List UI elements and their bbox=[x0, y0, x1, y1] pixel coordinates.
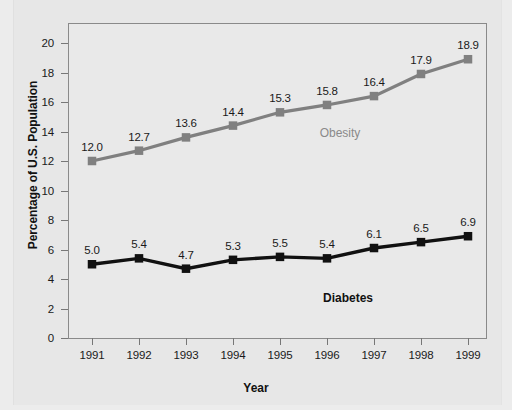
series-label-diabetes: Diabetes bbox=[268, 291, 428, 305]
data-point-marker bbox=[276, 253, 285, 262]
data-point-value-label: 5.4 bbox=[116, 238, 162, 250]
data-point-value-label: 5.4 bbox=[304, 238, 350, 250]
y-axis-tick bbox=[61, 279, 68, 280]
data-point-marker bbox=[323, 254, 332, 263]
x-axis-tick-label: 1998 bbox=[397, 349, 445, 361]
x-axis-tick-label: 1995 bbox=[256, 349, 304, 361]
data-point-value-label: 5.0 bbox=[69, 244, 115, 256]
data-point-value-label: 17.9 bbox=[398, 54, 444, 66]
y-axis-tick bbox=[61, 191, 68, 192]
x-axis-tick bbox=[468, 338, 469, 345]
series-obesity-line bbox=[88, 55, 473, 165]
y-axis-title: Percentage of U.S. Population bbox=[26, 35, 40, 295]
x-axis-tick bbox=[139, 338, 140, 345]
data-point-marker bbox=[370, 92, 379, 101]
x-axis-tick bbox=[233, 338, 234, 345]
data-point-marker bbox=[464, 232, 473, 241]
data-point-value-label: 4.7 bbox=[163, 249, 209, 261]
data-point-value-label: 6.1 bbox=[351, 228, 397, 240]
x-axis-tick bbox=[421, 338, 422, 345]
data-point-marker bbox=[88, 157, 97, 166]
data-point-marker bbox=[323, 101, 332, 110]
data-point-marker bbox=[88, 260, 97, 269]
data-point-marker bbox=[370, 244, 379, 253]
y-axis-tick bbox=[61, 220, 68, 221]
y-axis-tick bbox=[61, 43, 68, 44]
x-axis-tick bbox=[327, 338, 328, 345]
x-axis-tick-label: 1991 bbox=[68, 349, 116, 361]
y-axis-tick bbox=[61, 338, 68, 339]
x-axis-tick-label: 1999 bbox=[444, 349, 492, 361]
data-point-value-label: 13.6 bbox=[163, 117, 209, 129]
x-axis-tick bbox=[186, 338, 187, 345]
x-axis-tick-label: 1997 bbox=[350, 349, 398, 361]
x-axis-tick-label: 1993 bbox=[162, 349, 210, 361]
data-point-value-label: 12.0 bbox=[69, 141, 115, 153]
data-point-value-label: 16.4 bbox=[351, 76, 397, 88]
data-point-marker bbox=[464, 55, 473, 64]
data-point-marker bbox=[135, 254, 144, 263]
y-axis-tick bbox=[61, 250, 68, 251]
y-axis-tick-label: 2 bbox=[24, 303, 54, 315]
data-point-value-label: 15.8 bbox=[304, 85, 350, 97]
data-point-marker bbox=[417, 70, 426, 79]
data-point-value-label: 18.9 bbox=[445, 39, 491, 51]
data-point-marker bbox=[229, 121, 238, 130]
x-axis-tick-label: 1996 bbox=[303, 349, 351, 361]
data-point-value-label: 5.3 bbox=[210, 240, 256, 252]
data-point-value-label: 15.3 bbox=[257, 92, 303, 104]
x-axis-tick-label: 1994 bbox=[209, 349, 257, 361]
data-point-value-label: 6.5 bbox=[398, 222, 444, 234]
x-axis-tick-label: 1992 bbox=[115, 349, 163, 361]
x-axis-title: Year bbox=[0, 381, 512, 395]
y-axis-tick-label: 0 bbox=[24, 332, 54, 344]
data-point-marker bbox=[182, 264, 191, 273]
data-point-value-label: 14.4 bbox=[210, 106, 256, 118]
data-point-marker bbox=[182, 133, 191, 142]
y-axis-tick bbox=[61, 309, 68, 310]
y-axis-tick bbox=[61, 73, 68, 74]
data-point-marker bbox=[276, 108, 285, 117]
x-axis-tick bbox=[92, 338, 93, 345]
data-point-marker bbox=[417, 238, 426, 247]
series-label-obesity: Obesity bbox=[260, 126, 420, 140]
x-axis-tick bbox=[280, 338, 281, 345]
chart-figure: 02468101214161820 1991199219931994199519… bbox=[0, 0, 512, 410]
data-point-marker bbox=[229, 256, 238, 265]
data-point-marker bbox=[135, 146, 144, 155]
data-point-value-label: 12.7 bbox=[116, 131, 162, 143]
y-axis-tick bbox=[61, 102, 68, 103]
y-axis-tick bbox=[61, 161, 68, 162]
y-axis-tick bbox=[61, 132, 68, 133]
data-point-value-label: 6.9 bbox=[445, 216, 491, 228]
data-point-value-label: 5.5 bbox=[257, 237, 303, 249]
x-axis-tick bbox=[374, 338, 375, 345]
